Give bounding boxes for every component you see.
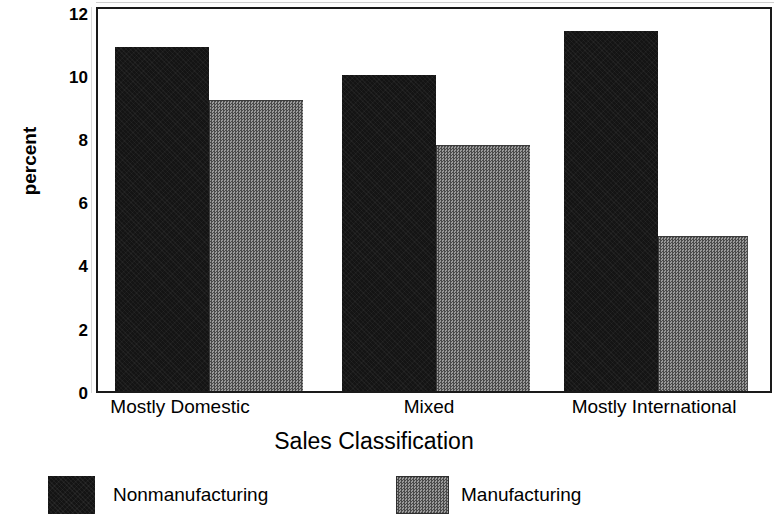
x-tick-label-mostly-international: Mostly International [524,396,774,418]
bar-nonmanufacturing-mixed [342,75,436,391]
chart-legend: Nonmanufacturing Manufacturing [0,476,774,514]
legend-label-nonmanufacturing: Nonmanufacturing [113,484,268,506]
x-tick-label-mostly-domestic: Mostly Domestic [70,396,290,418]
x-tick-label-mixed: Mixed [339,396,519,418]
bar-nonmanufacturing-mostly-international [564,31,658,391]
y-tick-label-8: 8 [48,132,88,149]
frame-ghost-left-line [91,7,92,393]
bar-nonmanufacturing-mostly-domestic [115,47,209,391]
legend-swatch-nonmanufacturing-icon [48,476,95,514]
y-tick-label-6: 6 [48,195,88,212]
y-tick-label-12: 12 [48,6,88,23]
bar-manufacturing-mixed [436,145,530,391]
y-tick-label-4: 4 [48,258,88,275]
bars-container [98,9,770,391]
bar-manufacturing-mostly-domestic [209,100,303,391]
y-tick-label-10: 10 [48,69,88,86]
plot-area [96,7,772,393]
y-axis-title: percent [19,101,41,221]
legend-swatch-manufacturing-icon [396,476,449,514]
x-axis-title-text: Sales Classification [274,428,473,454]
x-axis-title: Sales Classification [0,428,774,455]
y-tick-label-2: 2 [48,322,88,339]
bar-manufacturing-mostly-international [658,236,748,391]
frame-ghost-top-line [96,2,774,3]
legend-label-manufacturing: Manufacturing [461,484,581,506]
bar-chart-figure: percent 12 10 8 6 4 2 0 Mostly Domestic … [0,0,774,514]
